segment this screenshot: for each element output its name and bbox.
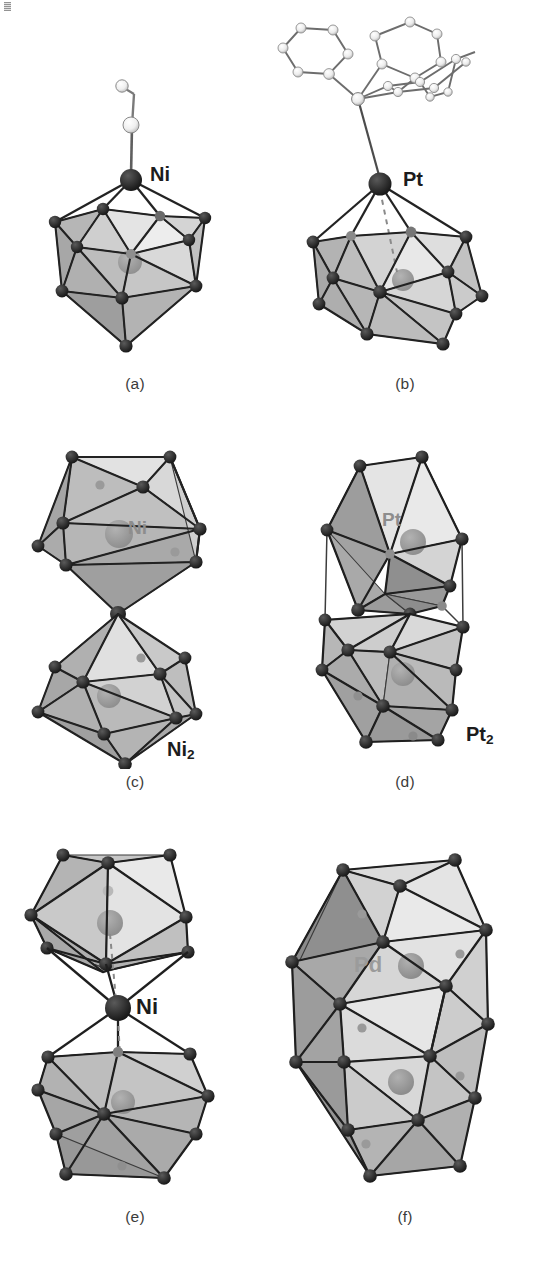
panel-a: Ni (a) (0, 4, 270, 393)
upper-icosahedron-d (321, 450, 469, 616)
atom-label-ni-c-center: Ni (128, 518, 147, 537)
panel-f: Pd (f) (270, 814, 540, 1226)
atom-label-pt2-d-subscript: 2 (486, 732, 494, 747)
atom-label-pt-d-center: Pt (382, 510, 401, 529)
panel-d: Pt Pt2 (d) (270, 424, 540, 791)
lower-icosahedron-e (31, 1047, 214, 1185)
upper-icosahedron-c (32, 451, 207, 614)
panel-f-structure: Pd (270, 814, 540, 1204)
panel-caption-e: (e) (0, 1208, 270, 1226)
interstitial-atom-e-upper (97, 910, 123, 936)
panel-b: Pt (b) (270, 4, 540, 393)
panel-caption-d: (d) (270, 773, 540, 791)
atom-label-pt-b: Pt (403, 169, 423, 189)
elongated-bi-icosahedral-cage-pd (270, 814, 540, 1204)
icosahedron-ni-mono (0, 4, 270, 369)
figure-panel-grid: Ni (a) (0, 0, 540, 1270)
panel-b-structure: Pt (270, 4, 540, 369)
atom-bridged-bi-icosahedron-ni (0, 814, 270, 1204)
icosahedron-faces-a (55, 209, 205, 346)
atom-label-ni2-c-symbol: Ni (167, 738, 187, 760)
panel-e-structure: Ni (0, 814, 270, 1204)
panel-c: Ni Ni2 (c) (0, 424, 270, 791)
panel-a-structure: Ni (0, 4, 270, 369)
atom-label-ni-e: Ni (136, 996, 158, 1018)
panel-caption-a: (a) (0, 375, 270, 393)
apical-ligand-a (116, 80, 139, 176)
panel-caption-c: (c) (0, 773, 270, 791)
vertex-shared-bi-icosahedron-pt2 (270, 424, 540, 769)
panel-caption-f: (f) (270, 1208, 540, 1226)
upper-icosahedron-e (24, 848, 194, 972)
bridging-ni-atom-e (105, 995, 131, 1021)
atom-label-ni2-c: Ni2 (167, 739, 195, 762)
atom-label-pt2-d-symbol: Pt (466, 723, 486, 745)
panel-c-structure: Ni Ni2 (0, 424, 270, 769)
atom-label-ni2-c-subscript: 2 (187, 747, 195, 762)
panel-e: Ni (e) (0, 814, 270, 1226)
panel-d-structure: Pt Pt2 (270, 424, 540, 769)
atom-label-ni-a: Ni (150, 164, 170, 184)
triphenylphosphine-ligand (283, 22, 475, 179)
panel-caption-b: (b) (270, 375, 540, 393)
vertex-shared-bi-icosahedron-ni2 (0, 424, 270, 769)
atom-label-pd-f: Pd (354, 954, 382, 976)
atom-label-pt2-d: Pt2 (466, 724, 494, 747)
lower-icosahedron-d (316, 614, 470, 749)
